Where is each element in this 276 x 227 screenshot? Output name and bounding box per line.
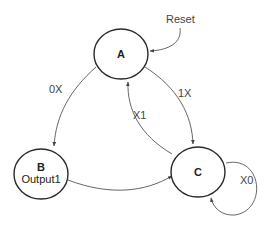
edge-a-to-b — [54, 67, 96, 146]
state-c-label: C — [194, 166, 202, 178]
edge-a-b-label: 0X — [49, 83, 63, 95]
state-a-label: A — [117, 48, 125, 60]
edge-a-to-c — [145, 67, 193, 144]
state-diagram: Reset 0X 1X X1 X0 A B Output1 C — [0, 0, 276, 227]
edge-c-c-label: X0 — [240, 174, 253, 186]
reset-label: Reset — [166, 13, 195, 25]
reset-arrow — [150, 28, 180, 51]
state-b-output: Output1 — [21, 173, 60, 185]
state-b: B Output1 — [14, 149, 68, 199]
edge-b-to-c — [68, 176, 172, 190]
edge-a-c-label: 1X — [178, 87, 192, 99]
edge-c-a-label: X1 — [133, 109, 146, 121]
state-b-label: B — [37, 161, 45, 173]
state-a: A — [94, 29, 148, 79]
state-c: C — [171, 147, 225, 197]
